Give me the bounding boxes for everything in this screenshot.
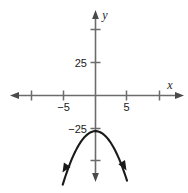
coordinate-plane: −5 5 x 25 −25 y	[0, 0, 188, 193]
y-axis-label: y	[101, 8, 108, 22]
x-tick-label-5: 5	[123, 101, 129, 113]
y-axis-up-arrowhead	[92, 10, 99, 19]
y-tick-label-25: 25	[75, 57, 87, 69]
x-tick-label-minus5: −5	[57, 101, 70, 113]
x-axis-right-arrowhead	[175, 92, 184, 99]
y-tick-label-minus25: −25	[68, 123, 87, 135]
x-axis-left-arrowhead	[10, 92, 19, 99]
x-axis-group: −5 5 x	[10, 78, 184, 113]
y-axis-down-arrowhead	[92, 173, 99, 182]
graph-figure: −5 5 x 25 −25 y	[0, 0, 188, 193]
x-axis-label: x	[166, 78, 173, 92]
